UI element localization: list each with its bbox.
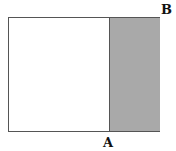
outer-rectangle (8, 17, 160, 132)
label-b: B (161, 3, 172, 16)
label-a: A (103, 136, 113, 149)
shaded-region (109, 18, 160, 131)
